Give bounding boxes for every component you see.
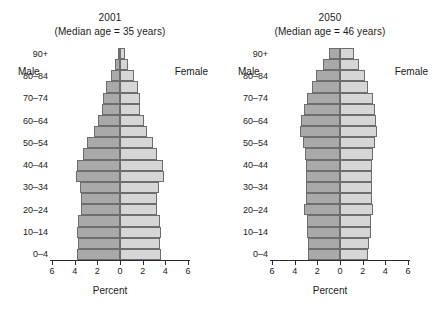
female-legend-label: Female bbox=[395, 66, 428, 77]
bar-male bbox=[307, 93, 340, 104]
bar-female bbox=[120, 171, 164, 182]
bar-female bbox=[340, 59, 359, 70]
x-axis-tick-label: 6 bbox=[44, 266, 60, 277]
y-axis-tick-label: 30–34 bbox=[23, 182, 48, 192]
x-axis-tick-label: 4 bbox=[67, 266, 83, 277]
bar-male bbox=[308, 238, 340, 249]
bar-male bbox=[83, 148, 120, 159]
bar-male bbox=[80, 182, 120, 193]
panel-title: 2050 bbox=[220, 12, 440, 24]
bar-female bbox=[340, 238, 369, 249]
x-axis-tick-label: 6 bbox=[400, 266, 416, 277]
y-axis-tick-label: 10–14 bbox=[243, 227, 268, 237]
bar-female bbox=[120, 93, 140, 104]
y-axis-tick-label: 40–44 bbox=[243, 160, 268, 170]
y-axis-tick-label: 50–54 bbox=[243, 138, 268, 148]
bar-female bbox=[120, 104, 140, 115]
bar-male bbox=[316, 70, 340, 81]
bar-male bbox=[323, 59, 340, 70]
y-axis-tick-label: 20–24 bbox=[243, 205, 268, 215]
x-axis-tick bbox=[340, 261, 341, 265]
bar-female bbox=[120, 204, 157, 215]
panel-subtitle: (Median age = 35 years) bbox=[0, 26, 220, 38]
y-axis-tick-label: 0–4 bbox=[253, 249, 268, 259]
x-axis-tick bbox=[165, 261, 166, 265]
bar-female bbox=[120, 148, 157, 159]
bar-female bbox=[120, 81, 138, 92]
bar-male bbox=[312, 81, 340, 92]
bar-male bbox=[78, 238, 120, 249]
bar-male bbox=[301, 115, 340, 126]
bar-female bbox=[120, 215, 160, 226]
x-axis-tick-label: 4 bbox=[157, 266, 173, 277]
x-axis-tick bbox=[385, 261, 386, 265]
x-axis-tick-label: 4 bbox=[287, 266, 303, 277]
bar-male bbox=[106, 81, 120, 92]
bar-female bbox=[120, 249, 161, 260]
bar-female bbox=[340, 193, 372, 204]
bar-female bbox=[120, 182, 159, 193]
x-axis-tick bbox=[52, 261, 53, 265]
x-axis-title: Percent bbox=[220, 285, 440, 297]
bar-male bbox=[329, 48, 340, 59]
y-axis-tick-label: 20–24 bbox=[23, 205, 48, 215]
x-axis-tick bbox=[75, 261, 76, 265]
bar-female bbox=[120, 137, 153, 148]
bar-male bbox=[77, 160, 120, 171]
plot-area bbox=[52, 48, 188, 260]
x-axis-tick bbox=[143, 261, 144, 265]
x-axis-title: Percent bbox=[0, 285, 220, 297]
bar-male bbox=[307, 227, 340, 238]
zero-axis-line bbox=[340, 48, 341, 260]
y-axis-tick-label: 70–74 bbox=[243, 93, 268, 103]
bar-male bbox=[308, 249, 340, 260]
x-axis-tick-label: 6 bbox=[180, 266, 196, 277]
x-axis-tick-label: 0 bbox=[332, 266, 348, 277]
bar-female bbox=[340, 204, 373, 215]
y-axis-labels: 90+80–8470–7460–6450–5440–4430–3420–2410… bbox=[220, 48, 268, 260]
bar-female bbox=[340, 115, 376, 126]
x-axis-tick-label: 6 bbox=[264, 266, 280, 277]
bar-male bbox=[94, 126, 120, 137]
bar-female bbox=[340, 148, 373, 159]
bar-male bbox=[78, 215, 120, 226]
y-axis-labels: 90+80–8470–7460–6450–5440–4430–3420–2410… bbox=[0, 48, 48, 260]
bar-female bbox=[120, 115, 144, 126]
bar-female bbox=[340, 160, 372, 171]
bar-male bbox=[111, 70, 120, 81]
y-axis-tick-label: 90+ bbox=[33, 49, 48, 59]
bar-male bbox=[304, 104, 340, 115]
bar-male bbox=[307, 215, 340, 226]
x-axis-tick bbox=[97, 261, 98, 265]
bar-male bbox=[305, 148, 340, 159]
bar-male bbox=[304, 204, 340, 215]
x-axis-tick bbox=[295, 261, 296, 265]
x-axis-tick bbox=[363, 261, 364, 265]
y-axis-tick-label: 40–44 bbox=[23, 160, 48, 170]
bar-female bbox=[120, 227, 161, 238]
x-axis-tick-label: 0 bbox=[112, 266, 128, 277]
bar-male bbox=[81, 204, 120, 215]
female-legend-label: Female bbox=[175, 66, 208, 77]
bar-female bbox=[340, 81, 368, 92]
bar-female bbox=[120, 238, 160, 249]
zero-axis-line bbox=[120, 48, 121, 260]
bar-female bbox=[120, 193, 157, 204]
bar-male bbox=[300, 126, 340, 137]
panel-2001: 2001(Median age = 35 years)90+80–8470–74… bbox=[0, 0, 220, 312]
x-axis-tick-label: 2 bbox=[135, 266, 151, 277]
x-axis-tick bbox=[408, 261, 409, 265]
bar-male bbox=[102, 104, 120, 115]
bar-female bbox=[340, 48, 354, 59]
x-axis-tick bbox=[188, 261, 189, 265]
bar-female bbox=[120, 70, 134, 81]
x-axis-tick-label: 2 bbox=[355, 266, 371, 277]
bar-male bbox=[87, 137, 120, 148]
bar-male bbox=[303, 137, 340, 148]
bar-female bbox=[340, 249, 368, 260]
bar-female bbox=[340, 171, 372, 182]
bar-female bbox=[340, 182, 372, 193]
bar-male bbox=[306, 193, 340, 204]
bar-female bbox=[340, 70, 365, 81]
male-legend-label: Male bbox=[18, 66, 40, 77]
